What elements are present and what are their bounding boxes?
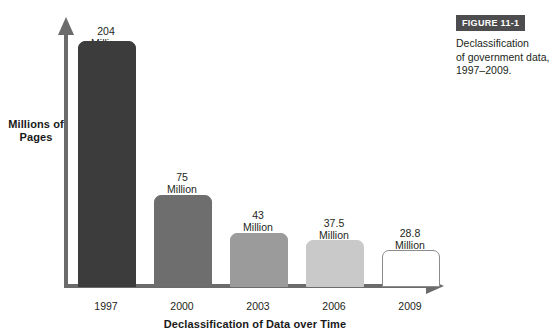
bar-value-label-2006: 37.5 Million: [294, 217, 374, 241]
figure-caption-text: Declassification of government data, 199…: [456, 37, 552, 78]
bar-value-label-2009: 28.8 Million: [370, 227, 450, 251]
x-tick-2009: 2009: [382, 300, 438, 312]
bar-2000[interactable]: [154, 195, 212, 287]
bar-group-2000: 75 Million: [154, 14, 210, 299]
bar-2003[interactable]: [230, 233, 288, 287]
figure-number-badge: FIGURE 11-1: [456, 15, 525, 31]
bar-1997[interactable]: [78, 41, 136, 287]
bar-value-label-2000: 75 Million: [142, 171, 222, 195]
bar-2006[interactable]: [306, 240, 364, 287]
x-tick-2003: 2003: [230, 300, 286, 312]
plot-area: 204 Million 75 Million 43 Million 37.5 M…: [60, 14, 450, 299]
figure-container: Millions of Pages 204 Million 75 Million…: [0, 0, 553, 336]
x-tick-1997: 1997: [78, 300, 134, 312]
x-axis-tick-labels: 1997 2000 2003 2006 2009: [60, 300, 450, 316]
bar-group-2009: 28.8 Million: [382, 14, 438, 299]
bar-group-2003: 43 Million: [230, 14, 286, 299]
bar-2009[interactable]: [382, 250, 440, 287]
x-tick-2006: 2006: [306, 300, 362, 312]
bar-value-label-2003: 43 Million: [218, 209, 298, 233]
bar-group-1997: 204 Million: [78, 14, 134, 299]
x-tick-2000: 2000: [154, 300, 210, 312]
bars-layer: 204 Million 75 Million 43 Million 37.5 M…: [60, 14, 450, 299]
bar-group-2006: 37.5 Million: [306, 14, 362, 299]
x-axis-title: Declassification of Data over Time: [60, 318, 450, 330]
figure-caption-block: FIGURE 11-1 Declassification of governme…: [456, 12, 552, 78]
